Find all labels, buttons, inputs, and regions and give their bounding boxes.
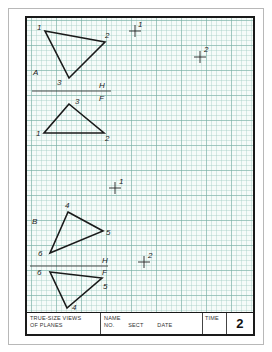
problem-b-front-view: 6 5 4 xyxy=(37,268,108,312)
time-field-label: TIME xyxy=(205,315,219,321)
sheet-number: 2 xyxy=(227,313,253,334)
problem-b-label: B xyxy=(32,217,38,226)
title-block-title: TRUE-SIZE VIEWS OF PLANES xyxy=(27,313,101,334)
info-row: NO. SECT DATE xyxy=(104,322,199,329)
crosshair-icon: 2 xyxy=(194,45,209,63)
point-label: 5 xyxy=(106,228,111,237)
problem-a: A 1 2 3 H F 3 1 2 1 xyxy=(32,20,209,143)
crosshair-label: 2 xyxy=(203,45,209,54)
crosshair-icon: 2 xyxy=(138,251,153,268)
no-field-label: NO. xyxy=(104,322,114,328)
title-line-2: OF PLANES xyxy=(30,322,97,329)
point-label: 3 xyxy=(57,78,62,87)
crosshair-label: 1 xyxy=(119,177,123,186)
date-field-label: DATE xyxy=(157,322,172,328)
point-label: 4 xyxy=(65,201,70,210)
problem-a-fold-line: H F xyxy=(32,81,111,103)
problem-a-top-view: 1 2 3 xyxy=(37,23,110,87)
fold-label-h: H xyxy=(102,256,108,265)
time-field: TIME xyxy=(203,313,227,334)
point-label: 6 xyxy=(38,249,43,258)
sect-field-label: SECT xyxy=(128,322,143,328)
triangle-b-top xyxy=(50,212,103,253)
triangle-a-front xyxy=(44,104,104,133)
crosshair-label: 2 xyxy=(147,251,153,260)
problem-a-crosshairs: 1 2 xyxy=(129,20,209,63)
point-label: 6 xyxy=(37,268,42,277)
point-label: 2 xyxy=(104,134,110,143)
triangle-a-top xyxy=(45,31,105,78)
title-block: TRUE-SIZE VIEWS OF PLANES NAME NO. SECT … xyxy=(25,312,255,336)
point-label: 2 xyxy=(104,31,110,40)
problem-a-front-view: 3 1 2 xyxy=(36,97,110,143)
problem-b: B 4 5 6 H F 6 5 4 1 xyxy=(30,177,153,312)
point-label: 4 xyxy=(72,303,77,312)
fold-label-h: H xyxy=(99,81,105,90)
point-label: 1 xyxy=(37,23,41,32)
problem-b-crosshairs: 1 2 xyxy=(109,177,153,268)
problem-a-label: A xyxy=(32,68,38,77)
title-block-info: NAME NO. SECT DATE xyxy=(101,313,203,334)
point-label: 1 xyxy=(36,129,40,138)
crosshair-icon: 1 xyxy=(109,177,123,194)
fold-label-f: F xyxy=(102,268,108,277)
crosshair-icon: 1 xyxy=(129,20,142,37)
point-label: 5 xyxy=(103,282,108,291)
fold-label-f: F xyxy=(99,94,105,103)
drawing-layer: A 1 2 3 H F 3 1 2 1 xyxy=(0,0,272,352)
crosshair-label: 1 xyxy=(138,20,142,29)
problem-b-top-view: 4 5 6 xyxy=(38,201,111,258)
point-label: 3 xyxy=(75,97,80,106)
